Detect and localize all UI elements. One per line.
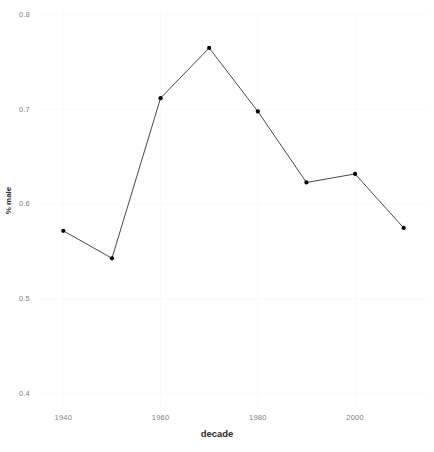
- x-tick-label: 1980: [238, 413, 278, 422]
- plot-panel: [39, 10, 428, 408]
- y-tick-label: 0.4: [4, 389, 30, 398]
- data-point: [110, 256, 114, 260]
- x-tick-label: 2000: [335, 413, 375, 422]
- series-line: [63, 48, 403, 258]
- data-point: [207, 46, 211, 50]
- x-tick-label: 1960: [141, 413, 181, 422]
- y-tick-label: 0.7: [4, 105, 30, 114]
- data-series: [39, 10, 428, 408]
- data-point: [304, 180, 308, 184]
- data-point: [353, 172, 357, 176]
- y-tick-label: 0.5: [4, 294, 30, 303]
- data-point: [158, 96, 162, 100]
- data-point: [402, 226, 406, 230]
- data-point: [61, 229, 65, 233]
- y-axis-title: % male: [4, 181, 13, 221]
- y-tick-label: 0.8: [4, 10, 30, 19]
- line-chart: 0.40.50.60.70.8 1940196019802000 % male …: [0, 0, 434, 452]
- x-tick-label: 1940: [43, 413, 83, 422]
- data-point: [256, 109, 260, 113]
- x-axis-title: decade: [0, 428, 434, 439]
